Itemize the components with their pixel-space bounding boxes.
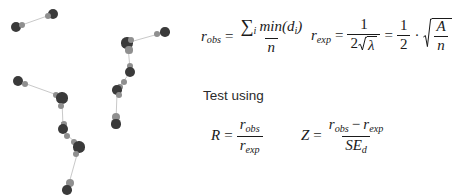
radical-tick-icon xyxy=(358,36,367,54)
Z-num-exp-subscript: exp xyxy=(369,123,383,134)
scatter-point xyxy=(62,185,72,195)
scatter-point xyxy=(73,151,79,157)
area-fraction: An xyxy=(433,19,448,54)
R-fraction: robsrexp xyxy=(237,117,263,155)
r-exp-equals: = xyxy=(331,27,347,43)
r-obs-fraction: ∑i min(di)n xyxy=(237,17,305,55)
count-symbol: n xyxy=(434,36,448,54)
standard-error-symbol: SE xyxy=(345,137,362,153)
sqrt-lambda: λ xyxy=(358,36,378,54)
R-den-subscript: exp xyxy=(245,144,259,155)
scatter-point xyxy=(64,133,70,139)
r-exp-first-denominator: 2λ xyxy=(347,34,380,54)
R-denominator: rexp xyxy=(237,136,263,156)
Z-denominator: SEd xyxy=(342,136,370,156)
area-symbol: A xyxy=(433,19,448,36)
scatter-point xyxy=(19,22,25,28)
min-function: min xyxy=(259,18,282,34)
standard-error-subscript: d xyxy=(362,144,367,155)
scatter-point xyxy=(160,27,170,37)
formula-panel: robs=∑i min(di)n rexp=12λ=12·An Test usi… xyxy=(195,0,448,196)
half-numerator: 1 xyxy=(397,18,411,35)
scatter-point xyxy=(111,119,120,128)
Z-minus-sign: − xyxy=(349,116,363,132)
r-obs-equals: = xyxy=(221,28,237,44)
r-obs-denominator: n xyxy=(265,38,279,56)
test-using-label: Test using xyxy=(203,88,264,103)
scatter-point xyxy=(125,46,132,53)
lambda-symbol: λ xyxy=(367,36,378,54)
lambda-coefficient: 2 xyxy=(350,35,358,51)
scatter-point xyxy=(56,92,67,103)
nearest-neighbour-links xyxy=(19,15,162,187)
Z-fraction: robs−rexpSEd xyxy=(326,117,386,155)
sqrt-area-over-n: An xyxy=(423,18,451,55)
formula-R-ratio: R=robsrexp xyxy=(211,118,263,156)
R-equals: = xyxy=(220,127,236,143)
radical-tick-icon-2 xyxy=(423,18,432,55)
r-obs-numerator: ∑i min(di) xyxy=(237,17,305,37)
sum-index: i xyxy=(254,25,257,36)
scatter-point xyxy=(128,37,134,43)
r-exp-first-numerator: 1 xyxy=(357,17,371,34)
scatter-point xyxy=(116,92,122,98)
Z-numerator: robs−rexp xyxy=(326,117,386,136)
nearest-neighbour-scatter-diagram xyxy=(0,0,195,196)
r-exp-subscript: exp xyxy=(317,34,331,45)
Z-equals: = xyxy=(309,127,325,143)
formula-r-observed: robs=∑i min(di)n xyxy=(201,18,305,56)
r-obs-subscript: obs xyxy=(207,34,221,45)
summation-icon: ∑ xyxy=(240,16,253,36)
area-density-fraction: An xyxy=(432,18,451,55)
scatter-point xyxy=(45,13,51,19)
r-exp-equals-2: = xyxy=(380,27,396,43)
paren-close: ) xyxy=(297,18,302,34)
multiplication-dot: · xyxy=(410,27,423,43)
r-exp-first-fraction: 12λ xyxy=(347,17,380,54)
R-symbol: R xyxy=(211,127,220,143)
r-exp-half-fraction: 12 xyxy=(397,18,411,53)
Z-num-obs-subscript: obs xyxy=(335,123,349,134)
formula-Z-score: Z=robs−rexpSEd xyxy=(301,118,386,156)
R-numerator: robs xyxy=(237,117,263,136)
R-num-subscript: obs xyxy=(245,123,259,134)
half-denominator: 2 xyxy=(397,35,411,53)
formula-r-expected: rexp=12λ=12·An xyxy=(311,18,452,55)
